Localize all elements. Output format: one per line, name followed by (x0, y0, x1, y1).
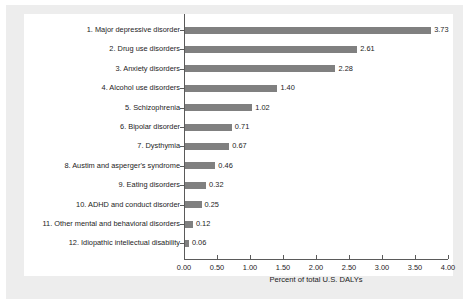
bar-value-label: 0.12 (196, 219, 210, 228)
bar-value-label: 3.73 (434, 25, 448, 34)
x-axis-title: Percent of total U.S. DALYs (184, 275, 448, 284)
y-axis-tick (180, 49, 184, 50)
category-label: 8. Austim and asperger's syndrome (64, 161, 180, 171)
x-axis-line (184, 259, 448, 260)
x-axis-tick (415, 255, 416, 259)
category-label: 9. Eating disorders (118, 180, 180, 190)
figure-panel: 1. Major depressive disorder2. Drug use … (6, 5, 463, 299)
x-axis-tick (217, 255, 218, 259)
y-axis-tick (180, 30, 184, 31)
bar (185, 240, 189, 247)
category-label: 3. Anxiety disorders (116, 64, 181, 74)
category-label: 10. ADHD and conduct disorder (76, 200, 180, 210)
y-axis-tick (180, 88, 184, 89)
bar-value-label: 2.28 (338, 64, 352, 73)
category-label: 4. Alcohol use disorders (102, 83, 180, 93)
bar-value-label: 0.67 (232, 141, 246, 150)
bar (185, 221, 193, 228)
y-axis-tick (180, 166, 184, 167)
bar-value-label: 1.02 (255, 103, 269, 112)
bar (185, 124, 232, 131)
bar-value-label: 2.61 (360, 44, 374, 53)
bar-value-label: 0.46 (218, 161, 232, 170)
x-axis-tick-label: 4.00 (428, 263, 468, 272)
bar (185, 104, 252, 111)
category-label: 7. Dysthymia (137, 141, 180, 151)
bar-value-label: 0.25 (205, 200, 219, 209)
bar-value-label: 0.71 (235, 122, 249, 131)
y-axis-tick (180, 185, 184, 186)
category-label: 11. Other mental and behavioral disorder… (43, 219, 181, 229)
category-axis-labels: 1. Major depressive disorder2. Drug use … (24, 14, 184, 259)
x-axis-tick (283, 255, 284, 259)
y-axis-tick (180, 127, 184, 128)
category-label: 12. Idiopathic intellectual disability (69, 238, 180, 248)
bar (185, 85, 277, 92)
category-label: 1. Major depressive disorder (87, 25, 180, 35)
chart-canvas: 1. Major depressive disorder2. Drug use … (24, 14, 453, 276)
bar (185, 65, 335, 72)
bar (185, 182, 206, 189)
bar-value-label: 0.32 (209, 180, 223, 189)
x-axis-tick (316, 255, 317, 259)
category-label: 6. Bipolar disorder (120, 122, 180, 132)
bar (185, 46, 357, 53)
bar (185, 162, 215, 169)
bar (185, 201, 202, 208)
bar-value-label: 1.40 (280, 83, 294, 92)
y-axis-tick (180, 108, 184, 109)
x-axis-tick (184, 255, 185, 259)
y-axis-tick (180, 224, 184, 225)
x-axis-tick (250, 255, 251, 259)
category-label: 2. Drug use disorders (109, 44, 180, 54)
y-axis-tick (180, 243, 184, 244)
bar-value-label: 0.06 (192, 238, 206, 247)
x-axis-tick (448, 255, 449, 259)
category-label: 5. Schizophrenia (125, 103, 180, 113)
y-axis-tick (180, 205, 184, 206)
bar (185, 143, 229, 150)
y-axis-tick (180, 146, 184, 147)
x-axis-tick (382, 255, 383, 259)
bar (185, 27, 431, 34)
x-axis-tick (349, 255, 350, 259)
y-axis-tick (180, 69, 184, 70)
